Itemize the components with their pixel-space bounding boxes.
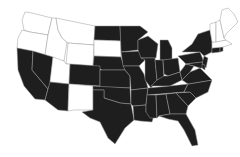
state-MI[interactable]: Michigan [160, 40, 172, 60]
state-WY[interactable]: Wyoming [66, 43, 94, 66]
state-ND[interactable]: North Dakota [94, 26, 121, 41]
state-DE[interactable]: Delaware [202, 64, 205, 70]
state-RI[interactable]: Rhode Island [220, 47, 223, 52]
us-map: Washington Oregon Idaho Montana Wyoming … [0, 0, 240, 157]
state-MS[interactable]: Mississippi [146, 95, 157, 118]
state-FL[interactable]: Florida [159, 114, 198, 146]
state-AZ[interactable]: Arizona [45, 82, 69, 111]
state-CO[interactable]: Colorado [69, 64, 100, 86]
state-NY[interactable]: New York [182, 30, 212, 56]
state-WI[interactable]: Wisconsin [138, 36, 158, 58]
state-KS[interactable]: Kansas [100, 70, 130, 88]
state-AR[interactable]: Arkansas [131, 88, 148, 106]
state-SD[interactable]: South Dakota [94, 40, 121, 57]
state-NM[interactable]: New Mexico [68, 84, 93, 111]
